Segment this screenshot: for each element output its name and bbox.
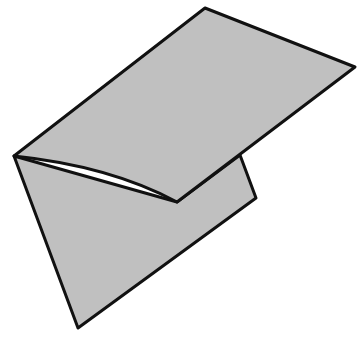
- folded-sheet-diagram: [0, 0, 359, 339]
